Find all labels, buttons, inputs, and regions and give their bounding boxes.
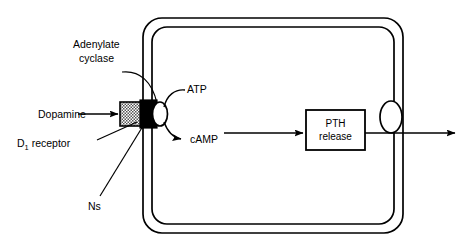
adenylate-cyclase-label-line1: Adenylate — [73, 38, 120, 50]
pth-release-label-line2: release — [319, 131, 352, 142]
pth-release-label-line1: PTH — [326, 118, 346, 129]
dopamine-label: Dopamine — [38, 108, 86, 120]
d1-receptor-label: D1 receptor — [17, 137, 71, 152]
diagram-canvas: PTH release Adenylate cyclase Dopamine D… — [0, 0, 460, 247]
atp-label: ATP — [187, 83, 207, 95]
d1-receptor-label-rest: receptor — [29, 137, 71, 149]
signalling-diagram: PTH release Adenylate cyclase Dopamine D… — [0, 0, 460, 247]
secretion-pore-oval — [380, 101, 402, 133]
adenylate-cyclase-oval — [153, 102, 168, 126]
atp-arrow — [164, 90, 185, 107]
d1-receptor-leader — [97, 122, 137, 140]
camp-arrow — [164, 122, 181, 139]
d1-receptor-block — [120, 102, 142, 126]
camp-label: cAMP — [190, 133, 218, 145]
adenylate-cyclase-label-line2: cyclase — [79, 52, 114, 64]
svg-text:D1 receptor: D1 receptor — [17, 137, 71, 152]
ns-leader — [100, 126, 143, 196]
pth-release-box — [306, 110, 365, 150]
ns-label: Ns — [88, 200, 101, 212]
